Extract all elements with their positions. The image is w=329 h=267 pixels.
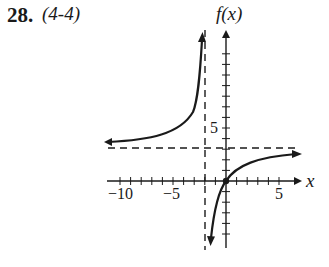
- down-branch-arrow-icon: [207, 236, 215, 246]
- x-axis-label: x: [305, 170, 315, 191]
- x-tick-label-5: 5: [275, 185, 283, 202]
- left-branch-arrow-icon: [104, 138, 112, 146]
- y-tick-label-5: 5: [210, 119, 218, 136]
- right-branch-arrow-icon: [292, 150, 302, 158]
- function-graph: f(x) x −10 −5 5 5: [0, 0, 329, 267]
- x-tick-label-neg5: −5: [163, 185, 180, 202]
- x-tick-label-neg10: −10: [108, 185, 133, 202]
- origin-point: [223, 178, 229, 184]
- curve-right-branch: [211, 154, 296, 238]
- curve-left-branch: [108, 40, 202, 142]
- y-axis-label: f(x): [216, 3, 242, 25]
